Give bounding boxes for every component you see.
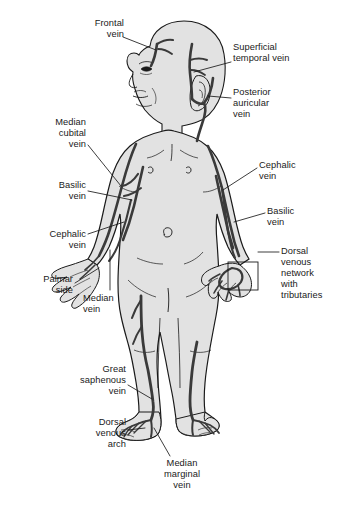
label-palmar-side: Palmar side: [11, 274, 73, 296]
label-frontal-vein: Frontal vein: [58, 18, 124, 40]
label-dorsal-venous-arch: Dorsal venous arch: [58, 417, 126, 450]
label-median-marginal-vein: Median marginal vein: [145, 458, 219, 491]
leader-median-marginal: [154, 428, 170, 456]
head-shape: [127, 21, 225, 138]
label-superficial-temporal-vein: Superficial temporal vein: [233, 42, 341, 64]
label-cephalic-vein-left: Cephalic vein: [11, 229, 86, 251]
label-cephalic-vein-right: Cephalic vein: [259, 160, 331, 182]
label-median-vein: Median vein: [83, 293, 145, 315]
leader-basilic-right: [234, 213, 265, 222]
leader-cephalic-right: [223, 168, 257, 190]
median-marginal-vein-left: [151, 420, 152, 437]
label-dorsal-venous-network: Dorsal venous network with tributaries: [281, 246, 343, 301]
label-posterior-auricular-vein: Posterior auricular vein: [233, 87, 319, 120]
median-marginal-vein-right: [192, 420, 193, 435]
label-basilic-vein-left: Basilic vein: [24, 180, 86, 202]
venous-anatomy-figure: Frontal vein Superficial temporal vein P…: [0, 0, 343, 508]
label-great-saphenous-vein: Great saphenous vein: [58, 364, 126, 397]
label-basilic-vein-right: Basilic vein: [267, 206, 333, 228]
eye-shape: [141, 67, 152, 72]
label-median-cubital-vein: Median cubital vein: [24, 117, 86, 150]
